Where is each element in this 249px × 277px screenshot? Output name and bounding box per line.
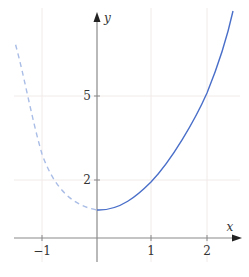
y-axis-arrow-icon xyxy=(94,12,101,22)
y-axis-label: y xyxy=(103,11,111,25)
x-axis-arrow-icon xyxy=(232,235,242,242)
x-tick-label-2: 2 xyxy=(203,244,211,258)
grid xyxy=(14,8,240,262)
y-tick-label-2: 2 xyxy=(83,173,91,187)
y-tick-label-5: 5 xyxy=(83,89,91,103)
x-axis-label: x xyxy=(227,220,234,234)
function-plot: −1 1 2 5 2 x y xyxy=(0,0,249,277)
y-axis xyxy=(94,12,101,262)
x-tick-label-neg1: −1 xyxy=(33,244,51,258)
x-tick-label-1: 1 xyxy=(147,244,155,258)
x-axis xyxy=(14,235,242,242)
